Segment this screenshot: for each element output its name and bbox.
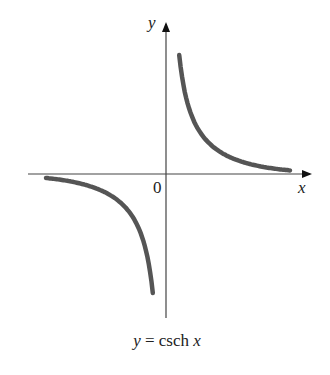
curve-positive-branch	[179, 55, 290, 170]
origin-label: 0	[153, 178, 162, 197]
y-axis-label: y	[146, 13, 156, 32]
curve-negative-branch	[46, 178, 153, 293]
caption: y = csch x	[131, 331, 201, 350]
csch-graph: y x 0 y = csch x	[0, 0, 330, 375]
x-axis-label: x	[297, 178, 306, 197]
